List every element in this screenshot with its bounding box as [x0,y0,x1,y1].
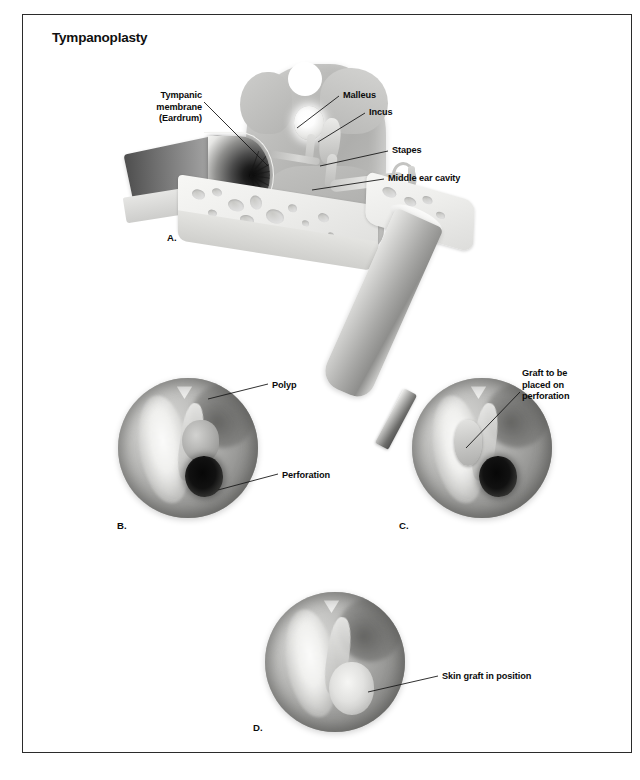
label-perforation: Perforation [282,470,330,482]
panel-letter-d: D. [253,722,263,733]
label-polyp: Polyp [272,380,297,392]
page-title: Tympanoplasty [52,30,147,45]
eardrum-rim-shadow [118,378,258,518]
label-graft: Graft to be placed on perforation [522,368,569,403]
panel-a-illustration [170,58,490,358]
label-middle-ear-cavity: Middle ear cavity [388,173,460,185]
panel-b-eardrum-view [118,378,258,518]
label-incus: Incus [369,107,393,119]
figure-page: Tympanoplasty [0,0,640,780]
cavity-lobe-left [240,72,292,134]
cavity-notch [288,62,322,96]
panel-letter-b: B. [117,520,127,531]
label-tympanic-membrane: Tympanic membrane (Eardrum) [118,90,202,125]
label-stapes: Stapes [392,145,422,157]
panel-letter-a: A. [167,232,177,243]
eardrum-rim-shadow [265,592,405,732]
label-malleus: Malleus [343,90,376,102]
panel-d-eardrum-view [265,592,405,732]
panel-letter-c: C. [399,520,409,531]
label-skin-graft: Skin graft in position [442,671,531,683]
